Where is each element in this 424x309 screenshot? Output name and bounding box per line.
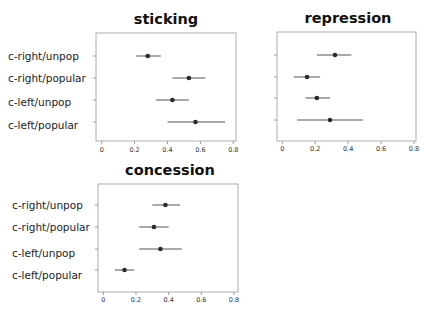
estimate-row	[115, 268, 135, 273]
row-label: c-right/popular	[12, 221, 91, 233]
point-estimate	[187, 76, 192, 81]
estimate-row	[139, 225, 168, 230]
point-estimate	[305, 75, 310, 80]
estimate-row	[136, 54, 161, 59]
row-label: c-right/unpop	[8, 50, 79, 62]
point-estimate	[145, 54, 150, 59]
estimate-row	[294, 75, 320, 80]
x-tick-label: 0.6	[195, 146, 205, 154]
panel-title: sticking	[134, 11, 198, 27]
x-tick-label: 0.8	[228, 146, 238, 154]
row-label: c-left/popular	[12, 269, 83, 281]
estimate-row	[297, 118, 363, 123]
estimate-row	[172, 76, 205, 81]
forest-plot-figure: sticking00.20.40.60.8c-right/unpopc-righ…	[0, 0, 424, 309]
x-tick-label: 0.4	[162, 146, 172, 154]
x-tick-label: 0.8	[409, 145, 419, 153]
estimate-row	[139, 247, 181, 252]
x-tick-label: 0.2	[310, 145, 320, 153]
estimate-row	[317, 53, 352, 58]
panel-concession: concession00.20.40.60.8c-right/unpopc-ri…	[12, 162, 239, 304]
x-tick-label: 0.2	[129, 146, 139, 154]
point-estimate	[158, 247, 163, 252]
plot-frame	[277, 32, 416, 141]
estimate-row	[305, 96, 330, 101]
point-estimate	[122, 268, 127, 273]
x-tick-label: 0.8	[229, 296, 239, 304]
row-label: c-left/unpop	[8, 96, 72, 108]
panel-repression: repression00.20.40.60.8	[274, 10, 419, 153]
row-label: c-left/popular	[8, 119, 79, 131]
x-tick-label: 0.4	[163, 296, 173, 304]
x-tick-label: 0	[101, 296, 105, 304]
estimate-row	[156, 98, 189, 103]
point-estimate	[163, 203, 168, 208]
panel-title: concession	[125, 162, 215, 178]
x-tick-label: 0.2	[131, 296, 141, 304]
row-label: c-right/popular	[8, 72, 87, 84]
plot-frame	[98, 184, 238, 292]
point-estimate	[193, 120, 198, 125]
point-estimate	[328, 118, 333, 123]
estimate-row	[152, 203, 180, 208]
plot-frame	[96, 33, 236, 141]
x-tick-label: 0.6	[376, 145, 386, 153]
point-estimate	[315, 96, 320, 101]
point-estimate	[152, 225, 157, 230]
point-estimate	[170, 98, 175, 103]
x-tick-label: 0	[280, 145, 284, 153]
point-estimate	[333, 53, 338, 58]
panel-sticking: sticking00.20.40.60.8c-right/unpopc-righ…	[8, 11, 238, 154]
estimate-row	[168, 120, 226, 125]
x-tick-label: 0	[100, 146, 104, 154]
panel-title: repression	[305, 10, 392, 26]
x-tick-label: 0.6	[196, 296, 206, 304]
x-tick-label: 0.4	[343, 145, 353, 153]
row-label: c-left/unpop	[12, 247, 76, 259]
row-label: c-right/unpop	[12, 199, 83, 211]
